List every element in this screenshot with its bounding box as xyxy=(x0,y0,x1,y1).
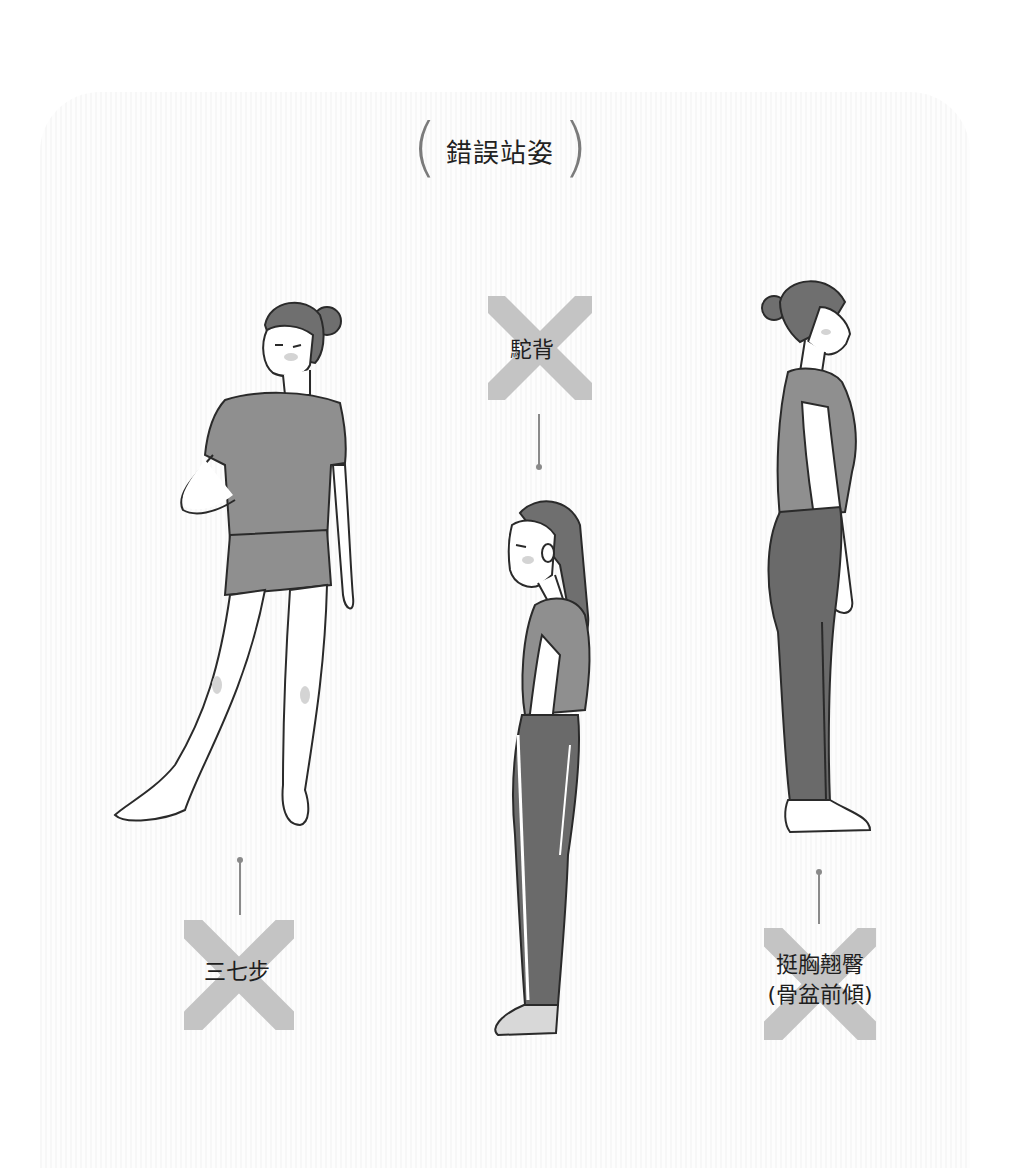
connector-line xyxy=(538,414,540,466)
label-line-1: 挺胸翹臀 xyxy=(745,950,895,980)
connector-line xyxy=(239,860,241,915)
figure-hunchback xyxy=(480,495,600,1045)
label-anterior-pelvic-tilt: 挺胸翹臀 (骨盆前傾) xyxy=(745,950,895,1010)
label-hunchback: 駝背 xyxy=(510,335,554,365)
connector-dot xyxy=(536,464,542,470)
connector-line xyxy=(818,872,820,924)
right-parenthesis: ) xyxy=(563,112,588,182)
figure-anterior-pelvic-tilt xyxy=(760,272,880,842)
label-line-2: (骨盆前傾) xyxy=(745,980,895,1010)
figure-uneven-stance xyxy=(105,285,365,840)
label-uneven-stance: 三七步 xyxy=(204,957,270,987)
page-title: 錯誤站姿 xyxy=(412,132,588,169)
title-group: ( 錯誤站姿 ) xyxy=(412,112,588,188)
